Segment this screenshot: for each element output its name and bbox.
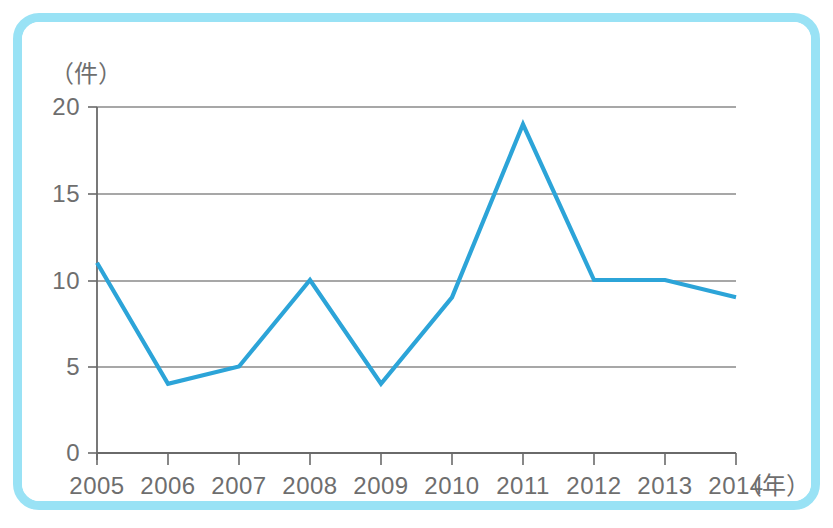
x-tick-label-2009: 2009 xyxy=(353,472,408,499)
line-chart: （件） xyxy=(22,22,829,519)
y-axis-ticks xyxy=(88,107,97,453)
x-tick-label-2008: 2008 xyxy=(282,472,337,499)
x-axis-unit-label: （年） xyxy=(738,472,810,499)
x-tick-label-2007: 2007 xyxy=(211,472,266,499)
x-tick-label-2010: 2010 xyxy=(424,472,479,499)
y-tick-label-15: 15 xyxy=(52,180,80,207)
x-tick-label-2005: 2005 xyxy=(69,472,124,499)
y-tick-label-10: 10 xyxy=(52,267,80,294)
data-series-line xyxy=(97,124,736,384)
y-axis-unit-label: （件） xyxy=(50,60,122,87)
y-tick-label-20: 20 xyxy=(52,93,80,120)
x-tick-label-2006: 2006 xyxy=(140,472,195,499)
x-axis-ticks xyxy=(97,453,736,465)
y-tick-label-0: 0 xyxy=(66,439,80,466)
chart-frame-inner: （件） xyxy=(22,22,811,501)
figure-root: （件） xyxy=(0,0,833,528)
gridlines xyxy=(97,107,736,367)
x-tick-label-2013: 2013 xyxy=(637,472,692,499)
y-tick-label-5: 5 xyxy=(66,353,80,380)
chart-canvas: （件） xyxy=(22,22,829,519)
chart-frame: （件） xyxy=(13,13,820,510)
x-tick-label-2011: 2011 xyxy=(496,472,550,499)
x-tick-label-2012: 2012 xyxy=(566,472,621,499)
